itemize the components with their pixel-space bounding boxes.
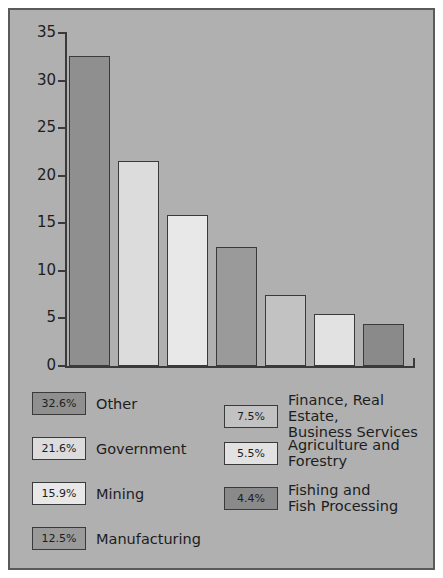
y-axis-tick-label: 20	[14, 168, 56, 183]
bar	[314, 314, 355, 366]
y-axis-tick	[58, 32, 67, 34]
y-axis-tick-label: 10	[14, 263, 56, 278]
y-axis-tick	[58, 365, 67, 367]
bar-series	[67, 33, 415, 366]
legend-item[interactable]: 5.5%Agriculture and Forestry	[224, 437, 400, 469]
bar	[216, 247, 257, 366]
legend-item[interactable]: 15.9%Mining	[32, 482, 144, 505]
legend-item[interactable]: 21.6%Government	[32, 437, 186, 460]
y-axis-tick-label: 0	[14, 358, 56, 373]
y-axis-tick-label: 15	[14, 215, 56, 230]
legend-item-label: Finance, Real Estate, Business Services	[288, 392, 434, 440]
y-axis-tick	[58, 270, 67, 272]
legend-swatch: 32.6%	[32, 392, 86, 415]
legend-swatch: 7.5%	[224, 405, 278, 428]
y-axis-tick	[58, 175, 67, 177]
legend-swatch: 5.5%	[224, 442, 278, 465]
legend-swatch: 15.9%	[32, 482, 86, 505]
chart-legend: 32.6%Other21.6%Government15.9%Mining12.5…	[10, 382, 437, 568]
legend-item-label: Manufacturing	[96, 531, 201, 547]
x-axis-line	[65, 366, 415, 368]
legend-item[interactable]: 12.5%Manufacturing	[32, 527, 201, 550]
legend-swatch: 4.4%	[224, 487, 278, 510]
legend-item[interactable]: 32.6%Other	[32, 392, 137, 415]
legend-swatch: 21.6%	[32, 437, 86, 460]
legend-item-label: Government	[96, 441, 186, 457]
y-axis-tick	[58, 80, 67, 82]
y-axis-tick-labels: 35302520151050	[10, 10, 56, 382]
y-axis-tick-label: 30	[14, 73, 56, 88]
y-axis-tick	[58, 317, 67, 319]
y-axis-tick	[58, 222, 67, 224]
bar	[118, 161, 159, 367]
y-axis-tick	[58, 127, 67, 129]
legend-item-label: Mining	[96, 486, 144, 502]
legend-swatch: 12.5%	[32, 527, 86, 550]
legend-item-label: Other	[96, 396, 137, 412]
legend-item[interactable]: 7.5%Finance, Real Estate, Business Servi…	[224, 392, 434, 440]
legend-item-label: Agriculture and Forestry	[288, 437, 400, 469]
y-axis-tick-label: 5	[14, 310, 56, 325]
chart-panel: 35302520151050 32.6%Other21.6%Government…	[8, 8, 435, 570]
y-axis-tick-label: 25	[14, 120, 56, 135]
chart-figure: 35302520151050 32.6%Other21.6%Government…	[0, 0, 443, 578]
plot-area: 35302520151050	[10, 10, 437, 382]
y-axis-tick-label: 35	[14, 25, 56, 40]
bar	[167, 215, 208, 366]
legend-item-label: Fishing and Fish Processing	[288, 482, 398, 514]
bar	[69, 56, 110, 366]
legend-item[interactable]: 4.4%Fishing and Fish Processing	[224, 482, 398, 514]
bar	[363, 324, 404, 366]
bar	[265, 295, 306, 366]
